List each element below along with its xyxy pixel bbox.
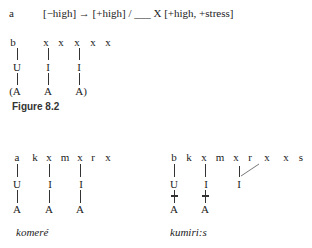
segment: x <box>46 151 52 163</box>
association-line <box>17 48 18 60</box>
segment: k <box>186 151 192 163</box>
segment: x <box>233 151 239 163</box>
lower-tone: A <box>201 203 209 215</box>
association-line <box>49 190 50 203</box>
spreading-line <box>240 163 260 177</box>
segment: x <box>283 151 289 163</box>
lower-tone: A <box>45 203 53 215</box>
upper-tone: I <box>204 178 208 190</box>
lower-tone: A <box>170 203 178 215</box>
segment: b <box>171 151 177 163</box>
delinked-line <box>174 190 175 203</box>
association-line <box>80 190 81 203</box>
association-line <box>17 73 18 85</box>
melody-lower: A <box>44 85 52 97</box>
melody-upper: U <box>13 61 21 73</box>
association-line <box>17 190 18 203</box>
segment: s <box>299 151 303 163</box>
melody-lower: A) <box>75 85 87 97</box>
association-line <box>48 48 49 60</box>
upper-tone: I <box>237 178 241 190</box>
association-line <box>79 48 80 60</box>
delinked-line <box>205 190 206 203</box>
segment: x <box>105 151 111 163</box>
lower-tone: A <box>76 203 84 215</box>
segment: r <box>248 151 252 163</box>
association-line <box>80 164 81 177</box>
rule-label: a <box>9 7 14 19</box>
rule-text: [−high] → [+high] / ___ X [+high, +stres… <box>43 7 233 19</box>
melody-upper: I <box>77 61 81 73</box>
segment: x <box>201 151 207 163</box>
skeleton-x: x <box>90 36 96 48</box>
segment: m <box>61 151 70 163</box>
skeleton-x: x <box>58 36 64 48</box>
segment: k <box>32 151 38 163</box>
gloss-right: kumiri:s <box>170 226 207 238</box>
segment: r <box>91 151 95 163</box>
segment: m <box>216 151 225 163</box>
skeleton-x: x <box>105 36 111 48</box>
upper-tone: U <box>13 178 21 190</box>
association-line <box>205 164 206 177</box>
association-line <box>49 164 50 177</box>
skeleton-x: x <box>74 36 80 48</box>
melody-lower: (A <box>9 85 21 97</box>
figure-caption: Figure 8.2 <box>12 101 59 112</box>
upper-tone: U <box>170 178 178 190</box>
delink-cross-icon <box>202 195 209 197</box>
skeleton-x: x <box>43 36 49 48</box>
upper-tone: I <box>48 178 52 190</box>
association-line <box>79 73 80 85</box>
association-line <box>48 73 49 85</box>
diagram-b-label: b <box>10 36 16 48</box>
segment: x <box>77 151 83 163</box>
melody-upper: I <box>46 61 50 73</box>
association-line <box>174 164 175 177</box>
upper-tone: I <box>79 178 83 190</box>
association-line <box>17 164 18 177</box>
gloss-left: komeré <box>16 226 48 238</box>
segment: a <box>15 151 20 163</box>
segment: x <box>264 151 270 163</box>
delink-cross-icon <box>171 195 178 197</box>
lower-tone: A <box>13 203 21 215</box>
